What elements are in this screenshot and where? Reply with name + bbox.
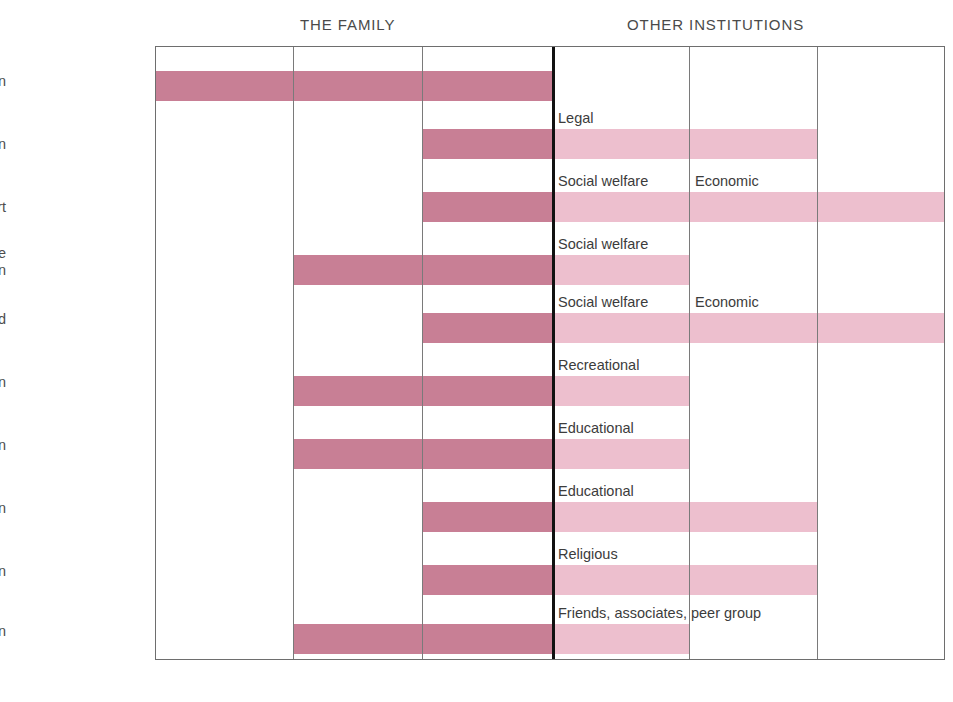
row-label-religion: Religion	[0, 563, 6, 580]
bar-love-and-affection-light	[552, 624, 689, 654]
bar-recreation-light	[552, 376, 689, 406]
row-label-support: Support	[0, 199, 6, 216]
annotation-educational: Educational	[558, 420, 634, 436]
bar-socialization-light	[552, 439, 689, 469]
column-divider-1	[293, 47, 294, 659]
bars-layer	[156, 47, 944, 659]
column-divider-5	[817, 47, 818, 659]
bar-procreation-dark	[156, 71, 552, 101]
row-label-mutual-aid: Mutual aid	[0, 311, 6, 328]
bar-mutual-aid-light	[552, 313, 944, 343]
row-label-love-and-affection: Love and affection	[0, 623, 6, 640]
row-label-recreation: Recreation	[0, 374, 6, 391]
chart-grid: LegalSocial welfareEconomicSocial welfar…	[155, 46, 945, 660]
group-header-the-family: THE FAMILY	[300, 16, 395, 33]
annotation-recreational: Recreational	[558, 357, 639, 373]
bar-education-light	[552, 502, 817, 532]
divider-family-vs-institutions	[552, 47, 555, 659]
bar-religion-dark	[422, 565, 552, 595]
annotation-economic: Economic	[695, 173, 759, 189]
annotation-social-welfare: Social welfare	[558, 173, 648, 189]
bar-mutual-aid-dark	[422, 313, 552, 343]
row-label-education: Education	[0, 500, 6, 517]
annotation-economic: Economic	[695, 294, 759, 310]
group-header-other-institutions: OTHER INSTITUTIONS	[627, 16, 804, 33]
annotation-social-welfare: Social welfare	[558, 294, 648, 310]
bar-support-dark	[422, 192, 552, 222]
bar-support-light	[552, 192, 944, 222]
row-label-procreation: Procreation	[0, 73, 6, 90]
row-label-protection: Protection	[0, 136, 6, 153]
column-divider-4	[689, 47, 690, 659]
annotation-educational: Educational	[558, 483, 634, 499]
bar-protection-light	[552, 129, 817, 159]
bar-religion-light	[552, 565, 817, 595]
bar-education-dark	[422, 502, 552, 532]
annotation-friends-associates-peer-group: Friends, associates, peer group	[558, 605, 761, 621]
annotation-legal: Legal	[558, 110, 593, 126]
column-divider-2	[422, 47, 423, 659]
bar-child-care-and-protection-light	[552, 255, 689, 285]
row-label-socialization: Socialization	[0, 437, 6, 454]
annotation-religious: Religious	[558, 546, 618, 562]
functions-of-family-chart: THE FAMILY OTHER INSTITUTIONS Procreatio…	[0, 0, 953, 702]
annotation-social-welfare: Social welfare	[558, 236, 648, 252]
row-label-child-care-and-protection: Child care and protection	[0, 245, 6, 279]
bar-protection-dark	[422, 129, 552, 159]
